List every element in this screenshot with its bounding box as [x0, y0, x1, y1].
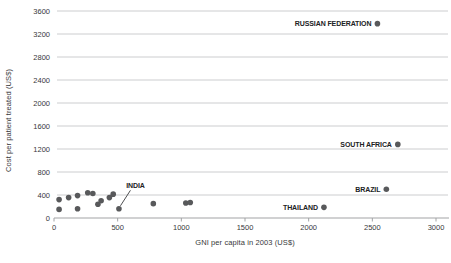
data-point	[85, 190, 91, 196]
country-label: BRAZIL	[355, 186, 381, 193]
data-point	[395, 142, 401, 148]
data-point	[56, 207, 62, 213]
x-tick-label: 2000	[300, 223, 317, 232]
y-tick-label: 3600	[33, 7, 50, 16]
data-point	[98, 198, 104, 204]
y-tick-label: 400	[37, 191, 50, 200]
data-point	[384, 186, 390, 192]
country-label: THAILAND	[283, 204, 318, 211]
y-tick-label: 3200	[33, 30, 50, 39]
india-leader-line	[120, 190, 130, 206]
x-tick-label: 1500	[237, 223, 254, 232]
data-point	[66, 195, 72, 201]
data-point	[75, 193, 81, 199]
data-point	[75, 206, 81, 212]
y-axis-title: Cost per patient treated (US$)	[4, 69, 13, 172]
x-tick-label: 1000	[173, 223, 190, 232]
data-point	[187, 200, 193, 206]
data-point	[321, 205, 327, 211]
country-label: INDIA	[126, 182, 145, 189]
x-axis-title: GNI per capita in 2003 (US$)	[54, 238, 436, 247]
scatter-chart: 0400800120016002000240028003200360005001…	[0, 0, 451, 263]
y-tick-label: 2000	[33, 99, 50, 108]
y-tick-label: 1600	[33, 122, 50, 131]
data-point	[151, 201, 157, 207]
x-tick-label: 3000	[428, 223, 445, 232]
data-point	[110, 191, 116, 197]
y-tick-label: 0	[46, 214, 50, 223]
y-tick-label: 800	[37, 168, 50, 177]
data-point	[90, 191, 96, 197]
data-point	[56, 197, 62, 203]
x-tick-label: 500	[111, 223, 124, 232]
y-tick-label: 1200	[33, 145, 50, 154]
y-tick-label: 2400	[33, 76, 50, 85]
y-tick-label: 2800	[33, 53, 50, 62]
data-point	[116, 206, 122, 212]
x-tick-label: 0	[52, 223, 56, 232]
plot-area: 0400800120016002000240028003200360005001…	[0, 0, 451, 263]
country-label: RUSSIAN FEDERATION	[295, 20, 372, 27]
x-tick-label: 2500	[364, 223, 381, 232]
data-point	[375, 21, 381, 27]
country-label: SOUTH AFRICA	[340, 141, 391, 148]
